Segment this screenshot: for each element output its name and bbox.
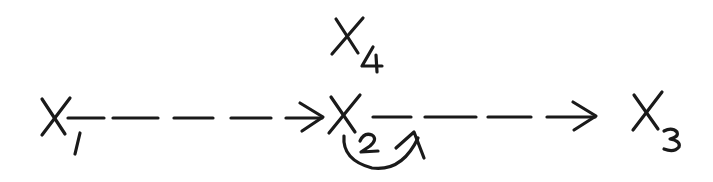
edge-x2-to-x3: [373, 102, 596, 130]
subscript-3-glyph: [664, 129, 679, 150]
node-x2: X2: [0, 0, 378, 152]
subscript-1-glyph: [75, 133, 80, 154]
node-x1: X1: [0, 0, 80, 154]
x-glyph-x3: [633, 92, 662, 130]
x-glyph-x2: [329, 95, 360, 133]
subscript-2-glyph: [360, 134, 378, 152]
x-glyph-x1: [42, 98, 70, 135]
x-glyph-x4: [332, 18, 363, 54]
subscript-4-glyph: [362, 47, 382, 72]
node-x4: X4: [0, 0, 382, 72]
node-x4-label: X4: [0, 0, 20, 3]
edge-x1-to-x2: [68, 103, 323, 131]
self-loop-x2: [344, 132, 424, 168]
diagram-canvas: X1 X2: [0, 0, 713, 182]
